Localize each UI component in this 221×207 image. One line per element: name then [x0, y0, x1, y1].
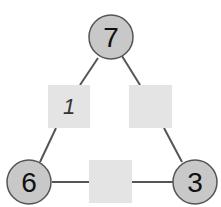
answer-box-right[interactable]: [129, 85, 172, 128]
edge-left-bottom: [40, 128, 56, 162]
edge-right-bottom: [164, 128, 182, 162]
edge-top-left: [80, 58, 98, 85]
circle-top-value: 7: [103, 22, 119, 53]
circle-bottom-right-value: 3: [187, 167, 203, 198]
circle-bottom-left-value: 6: [21, 167, 37, 198]
answer-box-bottom[interactable]: [89, 160, 132, 203]
number-triangle-diagram: 1 7 6 3: [0, 0, 221, 207]
answer-box-left-value: 1: [63, 94, 75, 119]
edge-top-right: [122, 56, 140, 85]
